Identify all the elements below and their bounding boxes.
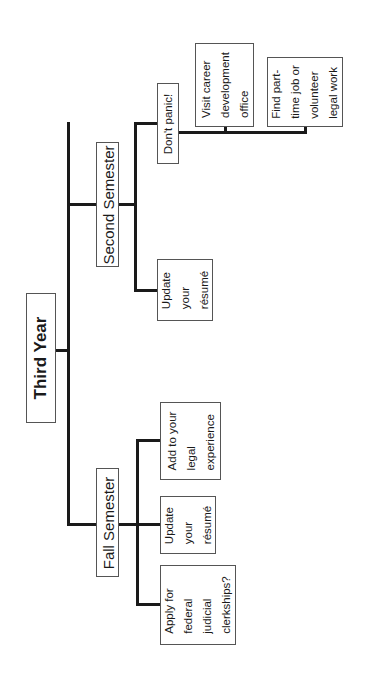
line: Update — [160, 506, 179, 544]
line: federal — [179, 576, 198, 634]
node-fall-semester-label: Fall Semester — [99, 476, 116, 569]
line: legal — [181, 412, 200, 471]
line: Visit career — [196, 52, 215, 118]
line: volunteer — [305, 65, 324, 119]
node-second-semester: Second Semester — [96, 142, 119, 267]
add-legal-exp-connector — [136, 439, 160, 442]
line: judicial — [198, 576, 217, 634]
visit-career-stub — [224, 126, 227, 133]
line: Find part- — [267, 65, 286, 119]
node-second-semester-label: Second Semester — [99, 145, 116, 264]
second-semester-children-trunk — [134, 122, 137, 292]
line: your — [179, 506, 198, 544]
line: résumé — [198, 506, 217, 544]
node-dont-panic: Don't panic! — [157, 83, 179, 164]
dont-panic-connector — [134, 122, 158, 125]
fall-semester-connector-in — [67, 523, 97, 526]
node-apply-clerkships: Apply for federal judicial clerkships? — [160, 565, 236, 645]
update-resume-2-connector — [134, 289, 158, 292]
node-fall-semester: Fall Semester — [96, 468, 119, 577]
line: Add to your — [162, 412, 181, 471]
line: development — [215, 52, 234, 118]
fall-semester-children-trunk — [136, 439, 139, 606]
fall-semester-connector-out — [118, 523, 160, 526]
line: your — [176, 271, 195, 309]
line: experience — [200, 412, 219, 471]
line: clerkships? — [217, 576, 236, 634]
apply-clerkships-connector — [136, 603, 160, 606]
find-job-stub — [304, 126, 307, 133]
line: legal work — [324, 65, 343, 119]
line: résumé — [195, 271, 214, 309]
root-node-label: Third Year — [31, 317, 51, 400]
root-node-third-year: Third Year — [26, 293, 56, 423]
main-trunk — [67, 122, 70, 526]
node-update-resume-second: Update your résumé — [157, 259, 213, 321]
line: Apply for — [160, 576, 179, 634]
node-visit-career-office: Visit career development office — [195, 43, 254, 127]
line: Update — [157, 271, 176, 309]
line: time job or — [286, 65, 305, 119]
node-add-legal-experience: Add to your legal experience — [160, 402, 221, 480]
dont-panic-children-bus — [178, 131, 307, 134]
line: office — [234, 52, 253, 118]
line: Don't panic! — [159, 93, 178, 153]
node-update-resume-fall: Update your résumé — [160, 496, 216, 554]
node-find-part-time-job: Find part- time job or volunteer legal w… — [267, 57, 343, 127]
second-semester-connector-in — [67, 203, 97, 206]
